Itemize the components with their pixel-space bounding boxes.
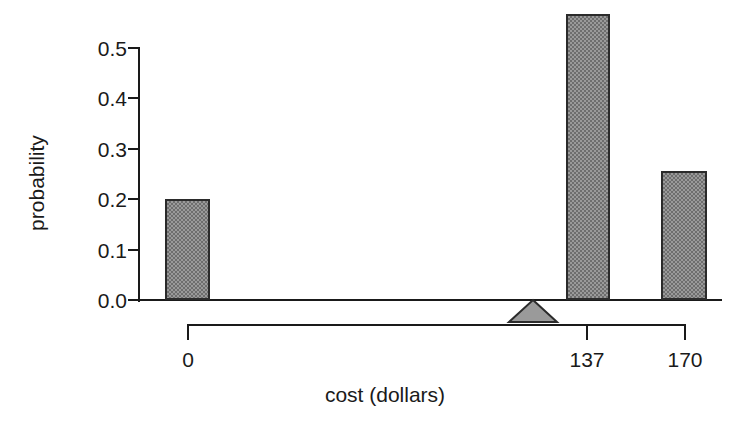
bar-cost-0 (165, 199, 210, 300)
x-axis-tick-0 (187, 324, 189, 340)
y-tick-label-0.5: 0.5 (55, 38, 127, 59)
y-tick-label-0.3: 0.3 (55, 139, 127, 160)
bar-cost-170 (661, 171, 707, 300)
x-axis-title: cost (dollars) (285, 383, 485, 407)
y-axis-spine (138, 47, 140, 302)
y-axis-title: probability (25, 113, 49, 253)
bar-cost-137 (566, 14, 610, 300)
x-axis-bracket-line (187, 324, 686, 326)
y-tick-label-0.1: 0.1 (55, 240, 127, 261)
y-tick-label-0.4: 0.4 (55, 88, 127, 109)
x-tick-label-137: 137 (557, 349, 617, 370)
y-tick-label-0.0: 0.0 (55, 290, 127, 311)
x-tick-label-170: 170 (655, 349, 715, 370)
y-axis-tick-0.4 (128, 97, 139, 99)
x-axis-tick-137 (586, 324, 588, 340)
baseline-axis (138, 299, 722, 301)
y-axis-tick-0.5 (128, 47, 139, 49)
x-tick-label-0: 0 (158, 349, 218, 370)
x-axis-tick-170 (684, 324, 686, 340)
y-axis-tick-0.3 (128, 148, 139, 150)
y-axis-tick-0.2 (128, 198, 139, 200)
mean-fulcrum-triangle-icon (504, 298, 562, 324)
probability-bar-chart: probability 0.5 0.4 0.3 0.2 0.1 0.0 0 13… (0, 0, 742, 426)
y-axis-tick-0.1 (128, 249, 139, 251)
y-tick-label-0.2: 0.2 (55, 189, 127, 210)
